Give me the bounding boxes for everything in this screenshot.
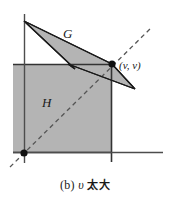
caption-index: (b) bbox=[60, 178, 75, 192]
figure-container: G H (v, v) (b) υ 太大 bbox=[0, 0, 170, 199]
caption-variable: υ bbox=[78, 178, 84, 192]
point-coordinate-label: (v, v) bbox=[119, 60, 141, 71]
diagram-canvas bbox=[0, 0, 170, 199]
figure-caption: (b) υ 太大 bbox=[0, 176, 170, 193]
point-marker-vv bbox=[108, 60, 115, 67]
region-g-label: G bbox=[63, 27, 72, 40]
region-h-label: H bbox=[42, 96, 51, 109]
region-h-square bbox=[13, 64, 112, 153]
caption-text: 太大 bbox=[87, 179, 110, 192]
point-marker-origin bbox=[20, 149, 27, 156]
